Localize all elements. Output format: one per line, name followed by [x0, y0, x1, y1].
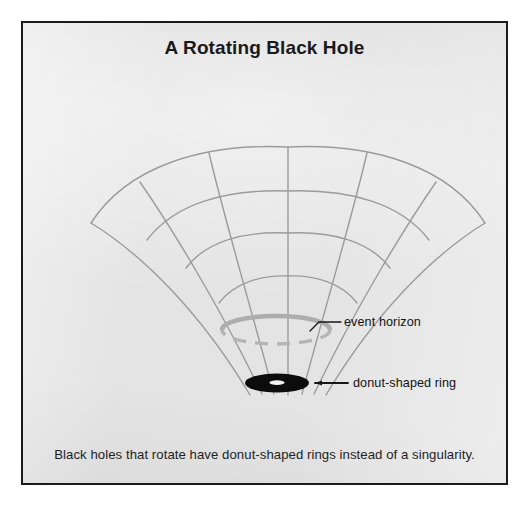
- grid-meridian-2: [140, 182, 262, 394]
- grid-meridian-7: [326, 223, 485, 395]
- callout-label-donut-shaped-ring: donut-shaped ring: [353, 376, 456, 390]
- donut-ring-hole: [269, 380, 284, 385]
- callout-label-event-horizon: event horizon: [344, 315, 421, 329]
- figure-frame: A Rotating Black Hole: [21, 21, 508, 485]
- event-horizon-ellipse: [222, 316, 330, 344]
- grid-meridian-3: [209, 153, 274, 394]
- donut-shaped-ring: [245, 373, 309, 392]
- grid-meridian-6: [314, 182, 436, 394]
- grid-meridian-5: [302, 153, 367, 394]
- figure-caption: Black holes that rotate have donut-shape…: [23, 447, 506, 462]
- grid-meridian-1: [91, 223, 250, 395]
- black-hole-funnel-diagram: [23, 23, 506, 483]
- figure-page: A Rotating Black Hole: [0, 0, 531, 507]
- funnel-grid: [91, 147, 485, 395]
